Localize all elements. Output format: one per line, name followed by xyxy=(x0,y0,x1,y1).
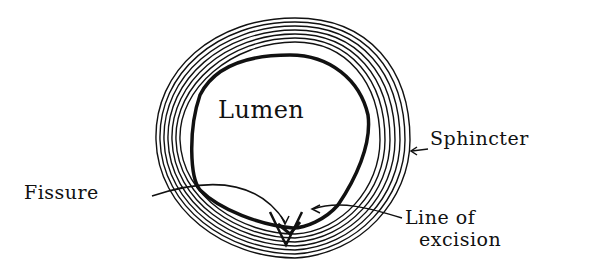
sphincter-label: Sphincter xyxy=(430,127,529,149)
fissure-label: Fissure xyxy=(24,181,99,203)
fissure-arrowhead xyxy=(281,216,289,224)
lumen-label: Lumen xyxy=(218,96,304,124)
lumen-outline xyxy=(192,55,369,228)
anal-canal-cross-section-diagram: Lumen Sphincter Fissure Line of excision xyxy=(0,0,590,278)
excision-arrowhead xyxy=(312,205,320,213)
line-of-excision-label-line1: Line of xyxy=(405,206,475,228)
line-of-excision-label-line2: excision xyxy=(419,228,501,250)
